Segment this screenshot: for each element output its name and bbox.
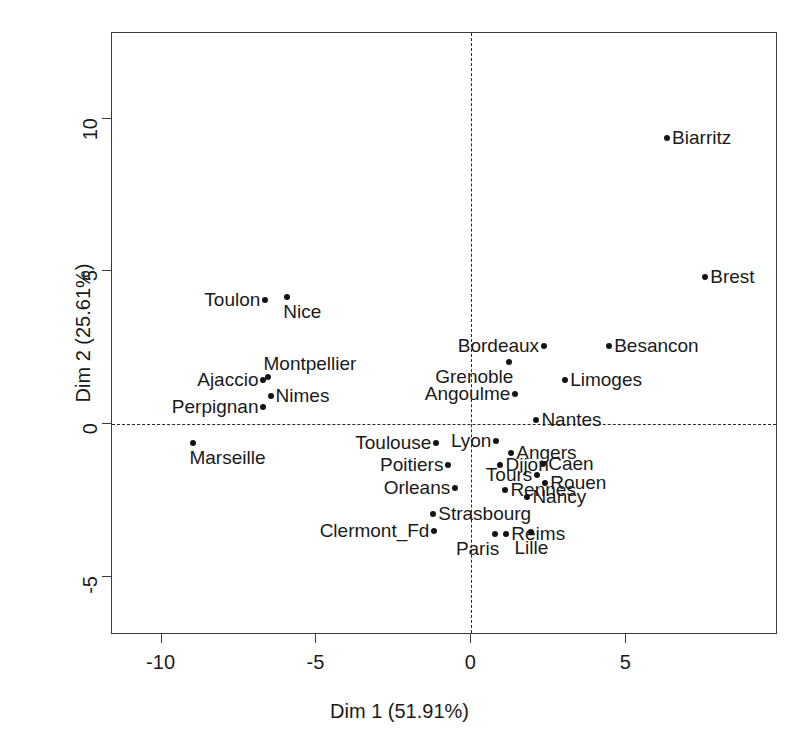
data-point-label: Nimes	[276, 386, 330, 405]
y-tick-mark	[102, 118, 111, 119]
data-point-label: Nancy	[532, 487, 586, 506]
data-point	[533, 417, 539, 423]
y-tick-label: 0	[79, 423, 102, 434]
data-point-label: Lyon	[451, 430, 492, 449]
data-point	[433, 440, 439, 446]
data-point-label: Toulon	[204, 290, 260, 309]
x-tick-mark	[161, 634, 162, 643]
data-point-label: Toulouse	[355, 433, 431, 452]
data-point-label: Caen	[548, 453, 593, 472]
data-point-label: Ajaccio	[197, 369, 258, 388]
x-tick-label: -10	[146, 651, 175, 674]
data-point	[562, 377, 568, 383]
data-point	[260, 404, 266, 410]
x-tick-label: 5	[620, 651, 631, 674]
x-axis-title: Dim 1 (51.91%)	[0, 700, 799, 723]
data-point	[503, 531, 509, 537]
data-point	[502, 487, 508, 493]
y-axis-title: Dim 2 (25.61%)	[72, 264, 95, 403]
x-tick-mark	[315, 634, 316, 643]
data-point-label: Clermont_Fd	[320, 521, 430, 540]
data-point	[534, 472, 540, 478]
data-point	[268, 393, 274, 399]
data-point	[430, 511, 436, 517]
data-point-label: Montpellier	[264, 354, 357, 373]
data-point-label: Perpignan	[172, 397, 259, 416]
data-point-label: Poitiers	[380, 455, 443, 474]
horizontal-reference-line	[112, 424, 776, 425]
data-point	[664, 135, 670, 141]
y-tick-label: 5	[79, 270, 102, 281]
data-point-label: Limoges	[570, 369, 642, 388]
data-point	[452, 485, 458, 491]
data-point	[493, 438, 499, 444]
data-point-label: Orleans	[384, 478, 451, 497]
data-point	[445, 462, 451, 468]
y-tick-mark	[102, 270, 111, 271]
data-point-label: Biarritz	[672, 128, 731, 147]
data-point	[492, 531, 498, 537]
data-point	[541, 343, 547, 349]
data-point-label: Nantes	[541, 410, 601, 429]
plot-frame: BiarritzBrestToulonNiceBesanconBordeauxG…	[111, 32, 777, 634]
data-point	[284, 294, 290, 300]
data-point	[190, 440, 196, 446]
plot-area: BiarritzBrestToulonNiceBesanconBordeauxG…	[112, 33, 776, 633]
x-tick-label: -5	[307, 651, 325, 674]
y-tick-mark	[102, 423, 111, 424]
data-point	[512, 391, 518, 397]
y-tick-label: 10	[79, 118, 102, 140]
data-point-label: Brest	[710, 267, 754, 286]
data-point-label: Angoulme	[425, 384, 511, 403]
data-point	[431, 528, 437, 534]
y-tick-label: -5	[79, 576, 102, 594]
data-point	[262, 297, 268, 303]
x-tick-label: 0	[465, 651, 476, 674]
data-point-label: Marseille	[189, 448, 265, 467]
chart-page: Dim 2 (25.61%) 1050-5 -10-505 BiarritzBr…	[0, 0, 799, 745]
data-point-label: Strasbourg	[438, 504, 531, 523]
data-point-label: Bordeaux	[458, 335, 539, 354]
x-tick-mark	[470, 634, 471, 643]
data-point-label: Paris	[456, 539, 499, 558]
data-point-label: Besancon	[614, 335, 699, 354]
data-point-label: Lille	[515, 538, 549, 557]
data-point	[606, 343, 612, 349]
data-point-label: Nice	[283, 302, 321, 321]
y-tick-mark	[102, 576, 111, 577]
x-tick-mark	[625, 634, 626, 643]
data-point	[506, 359, 512, 365]
data-point	[702, 274, 708, 280]
